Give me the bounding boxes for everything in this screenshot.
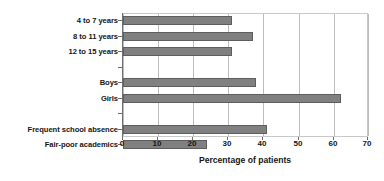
category-tick <box>118 82 122 83</box>
bar-frequent-school-absence <box>123 125 267 134</box>
chart-row: Frequent school absence <box>0 122 384 138</box>
bar-4-to-7-years <box>123 16 232 25</box>
category-tick <box>118 98 122 99</box>
bar-8-to-11-years <box>123 32 253 41</box>
category-label: Frequent school absence <box>0 125 118 134</box>
category-tick <box>118 36 122 37</box>
chart-row-spacer <box>0 60 384 76</box>
chart-row: Boys <box>0 75 384 91</box>
category-tick <box>118 129 122 130</box>
category-label: Boys <box>0 78 118 87</box>
bar-rows: 4 to 7 years 8 to 11 years 12 to 15 year… <box>0 13 384 137</box>
bar-girls <box>123 94 341 103</box>
chart-row: Girls <box>0 91 384 107</box>
x-tick-label: 10 <box>142 139 172 149</box>
category-tick <box>118 20 122 21</box>
x-axis-labels: 0 10 20 30 40 50 60 70 <box>0 139 384 151</box>
chart-row-spacer <box>0 106 384 122</box>
category-tick <box>118 51 122 52</box>
x-tick-label: 60 <box>318 139 348 149</box>
category-tick <box>118 67 122 68</box>
category-label: 8 to 11 years <box>0 32 118 41</box>
category-label: 4 to 7 years <box>0 16 118 25</box>
category-label: Girls <box>0 94 118 103</box>
x-tick-label: 70 <box>352 139 382 149</box>
x-tick-label: 20 <box>177 139 207 149</box>
x-axis-title: Percentage of patients <box>122 155 368 165</box>
x-tick-label: 50 <box>283 139 313 149</box>
x-tick-label: 0 <box>107 139 137 149</box>
bar-12-to-15-years <box>123 47 232 56</box>
chart-row: 8 to 11 years <box>0 29 384 45</box>
chart-row: 12 to 15 years <box>0 44 384 60</box>
category-label: 12 to 15 years <box>0 47 118 56</box>
x-tick-label: 40 <box>247 139 277 149</box>
bar-boys <box>123 78 256 87</box>
bar-chart-figure: 4 to 7 years 8 to 11 years 12 to 15 year… <box>0 0 384 181</box>
chart-row: 4 to 7 years <box>0 13 384 29</box>
category-tick <box>118 113 122 114</box>
x-tick-label: 30 <box>212 139 242 149</box>
